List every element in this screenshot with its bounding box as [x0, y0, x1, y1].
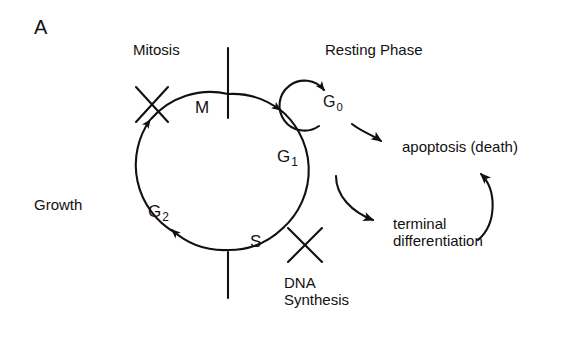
phase-s-base: S [250, 232, 261, 251]
phase-label-m: M [195, 98, 209, 118]
cycle-arc-m-to-g1 [228, 94, 280, 110]
label-terminal-line2: differentiation [393, 233, 483, 250]
label-dna-line2: Synthesis [284, 292, 349, 309]
phase-label-g0: G0 [323, 93, 342, 111]
label-dna-synthesis: DNA Synthesis [284, 275, 349, 309]
phase-label-g2: G2 [148, 202, 168, 222]
phase-g2-sub: 2 [162, 210, 169, 224]
label-growth: Growth [34, 197, 82, 214]
phase-label-s: S [250, 232, 261, 252]
arrow-g1-to-terminal [336, 176, 373, 220]
label-resting-phase: Resting Phase [325, 42, 423, 59]
label-dna-line1: DNA [284, 275, 349, 292]
phase-g1-base: G [277, 147, 290, 166]
phase-m-base: M [195, 98, 209, 117]
phase-g0-sub: 0 [336, 101, 342, 113]
panel-letter: A [34, 16, 47, 38]
g0-circle-arc [279, 81, 324, 131]
phase-label-g1: G1 [277, 147, 297, 167]
phase-g0-base: G [323, 93, 335, 110]
cycle-arc-s-to-g2 [172, 230, 228, 250]
label-terminal-differentiation: terminal differentiation [393, 216, 483, 250]
cell-cycle-figure: A Mitosis Resting Phase apoptosis (death… [0, 0, 576, 350]
label-mitosis: Mitosis [133, 42, 180, 59]
label-apoptosis: apoptosis (death) [402, 139, 518, 156]
arrow-g0-to-apoptosis [352, 124, 381, 141]
phase-g2-base: G [148, 202, 161, 221]
phase-g1-sub: 1 [291, 155, 298, 169]
label-terminal-line1: terminal [393, 216, 483, 233]
